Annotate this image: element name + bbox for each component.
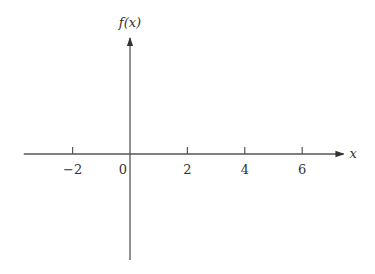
x-axis-label: x [350,146,358,161]
function-axes-chart: −20246 x f(x) [0,0,375,274]
x-tick-label: −2 [63,162,82,177]
y-axis-label: f(x) [118,15,141,30]
x-tick-label: 6 [298,162,306,177]
x-tick-label: 2 [183,162,191,177]
x-tick-label: 0 [119,162,127,177]
x-ticks: −20246 [63,147,306,177]
x-tick-label: 4 [241,162,249,177]
